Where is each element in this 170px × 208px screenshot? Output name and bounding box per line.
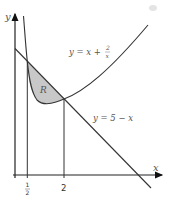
corner-smudge-icon <box>149 5 157 11</box>
tick-label-2: 2 <box>61 183 66 193</box>
tick-label-half-den: 2 <box>26 189 30 196</box>
curve-label: y = x + <box>68 47 101 57</box>
x-axis-label: x <box>153 162 159 173</box>
line-label: y = 5 − x <box>92 113 133 123</box>
region-label: R <box>39 85 47 95</box>
region-diagram: y x y = x + 2 x y = 5 − x R 1 2 2 <box>0 0 170 208</box>
region-r-shading <box>27 61 64 104</box>
curve-label-frac-num: 2 <box>105 44 110 51</box>
curve-label-frac-den: x <box>106 52 110 59</box>
y-axis-label: y <box>4 11 11 22</box>
tick-label-half-num: 1 <box>26 181 30 188</box>
